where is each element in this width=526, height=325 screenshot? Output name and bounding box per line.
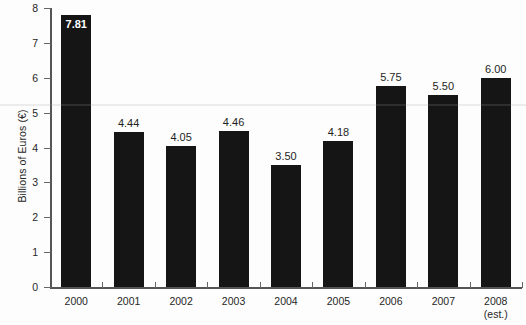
bar-2005[interactable] [323,141,353,287]
x-axis-label-2000: 2000 [65,295,88,308]
x-axis-label-2005: 2005 [327,295,350,308]
x-axis-tick [365,282,366,288]
x-axis-line [50,287,522,289]
y-axis-tick-label: 1 [0,246,38,258]
bar-value-label: 4.46 [223,116,244,128]
x-axis-tick [522,282,523,288]
y-axis-tick-label: 3 [0,176,38,188]
y-axis-tick-label: 7 [0,37,38,49]
x-axis-label-2008: 2008(est.) [484,295,508,321]
x-axis-label-year: 2005 [327,295,350,307]
x-axis-label-year: 2001 [117,295,140,307]
x-axis-tick [207,282,208,288]
bar-value-label: 4.18 [328,126,349,138]
x-axis-tick [102,282,103,288]
bar-2002[interactable] [166,146,196,287]
bar-2004[interactable] [271,165,301,287]
y-axis-tick-label: 4 [0,142,38,154]
x-axis-label-year: 2000 [65,295,88,307]
bar-value-label: 4.44 [118,117,139,129]
x-axis-label-year: 2008 [484,295,507,307]
y-axis-tick [44,78,51,79]
bar-value-label: 4.05 [170,131,191,143]
bar-chart: Billions of Euros (€) 012345678 7.814.44… [0,0,526,325]
y-axis-tick-label: 6 [0,72,38,84]
x-axis-label-year: 2007 [432,295,455,307]
bar-2000[interactable] [61,15,91,287]
bar-2007[interactable] [428,95,458,287]
x-axis-tick [312,282,313,288]
bar-value-label: 5.50 [433,80,454,92]
y-axis-tick [44,182,51,183]
y-axis-tick-label: 5 [0,107,38,119]
x-axis-label-2004: 2004 [274,295,297,308]
x-axis-label-note: (est.) [484,308,508,321]
x-axis-tick [155,282,156,288]
bar-value-label: 6.00 [485,63,506,75]
x-axis-tick [417,282,418,288]
bar-2003[interactable] [219,131,249,287]
x-axis-label-year: 2003 [222,295,245,307]
y-axis-tick [44,252,51,253]
y-axis-title: Billions of Euros (€) [16,56,28,256]
y-axis-tick [44,287,51,288]
bar-2006[interactable] [376,86,406,287]
y-axis-tick [44,8,51,9]
x-axis-label-year: 2004 [274,295,297,307]
x-axis-label-2007: 2007 [432,295,455,308]
y-axis-tick-label: 2 [0,211,38,223]
x-axis-label-2003: 2003 [222,295,245,308]
x-axis-label-year: 2006 [379,295,402,307]
bar-2001[interactable] [114,132,144,287]
bar-value-label: 3.50 [275,150,296,162]
x-axis-tick [260,282,261,288]
y-axis-tick [44,43,51,44]
x-axis-label-year: 2002 [169,295,192,307]
x-axis-label-2001: 2001 [117,295,140,308]
y-axis-tick-label: 8 [0,2,38,14]
bar-value-label: 7.81 [66,18,87,30]
y-axis-tick-label: 0 [0,281,38,293]
y-axis-tick [44,217,51,218]
x-axis-label-2006: 2006 [379,295,402,308]
x-axis-tick [470,282,471,288]
y-axis-tick [44,113,51,114]
bar-value-label: 5.75 [380,71,401,83]
x-axis-label-2002: 2002 [169,295,192,308]
bar-2008[interactable] [481,78,511,287]
y-axis-tick [44,148,51,149]
